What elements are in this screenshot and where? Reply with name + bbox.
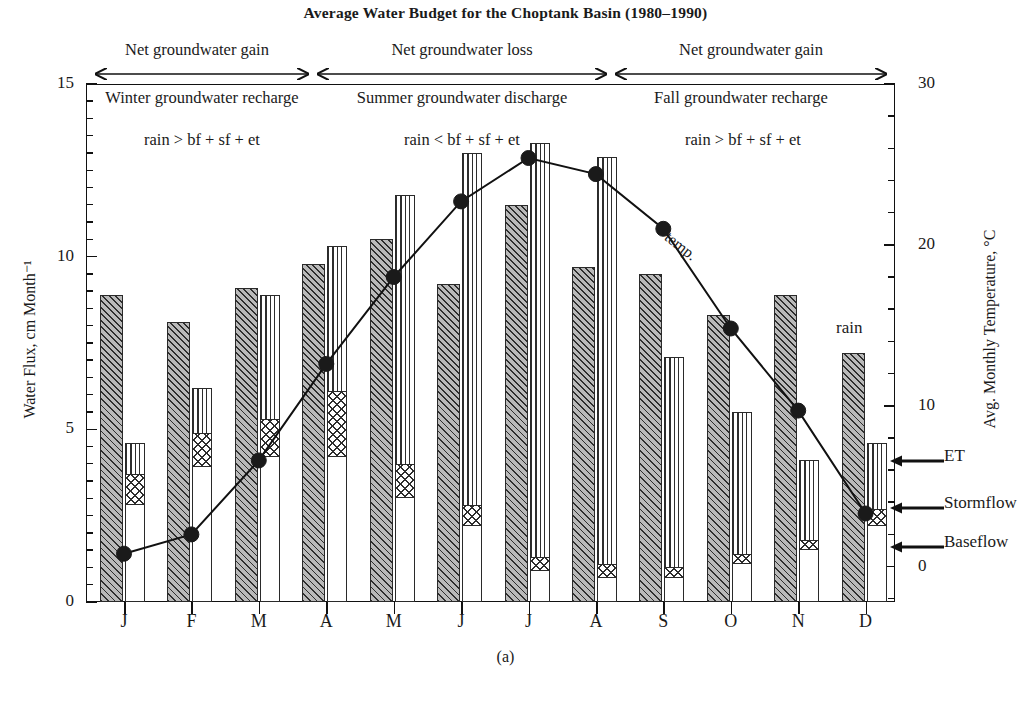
temp-point-J-0 — [117, 546, 132, 561]
temp-point-F-1 — [184, 527, 199, 542]
band-subtitle-1: Winter groundwater recharge — [86, 88, 318, 108]
baseflow-callout-arrow — [890, 539, 946, 555]
band-title-3: Net groundwater gain — [616, 40, 886, 60]
temp-point-O-9 — [723, 321, 738, 336]
panel-caption: (a) — [0, 648, 1011, 666]
band-inequality-3: rain > bf + sf + et — [614, 130, 872, 150]
temp-point-A-7 — [588, 167, 603, 182]
band-title-2: Net groundwater loss — [318, 40, 606, 60]
et-callout-arrow — [890, 453, 946, 469]
band-inequality-2: rain < bf + sf + et — [322, 130, 602, 150]
temp-point-M-2 — [251, 453, 266, 468]
band-arrows — [86, 58, 895, 86]
band-inequality-1: rain > bf + sf + et — [86, 130, 318, 150]
temp-point-N-10 — [791, 403, 806, 418]
band-subtitle-2: Summer groundwater discharge — [320, 88, 604, 108]
legend-label-baseflow: Baseflow — [944, 532, 1022, 552]
band-title-1: Net groundwater gain — [86, 40, 308, 60]
temp-point-M-4 — [386, 270, 401, 285]
temp-point-J-6 — [521, 151, 536, 166]
legend-label-stormflow: Stormflow — [944, 493, 1022, 513]
stormflow-callout-arrow — [890, 500, 946, 516]
temp-point-D-11 — [858, 506, 873, 521]
band-subtitle-3: Fall groundwater recharge — [612, 88, 870, 108]
rain-series-label: rain — [836, 318, 862, 338]
legend-label-et: ET — [944, 446, 1022, 466]
temp-point-A-3 — [319, 356, 334, 371]
temp-point-J-5 — [454, 194, 469, 209]
